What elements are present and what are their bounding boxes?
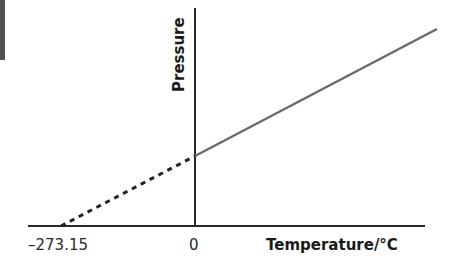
pressure-temperature-chart: –273.15 0 Temperature/°C Pressure xyxy=(0,0,459,277)
extrapolated-line xyxy=(61,156,195,226)
y-axis-label: Pressure xyxy=(170,17,188,92)
tick-zero: 0 xyxy=(189,236,199,254)
measured-line xyxy=(195,29,437,156)
x-axis-label: Temperature/°C xyxy=(266,236,398,254)
tick-abs-zero: –273.15 xyxy=(28,236,88,254)
